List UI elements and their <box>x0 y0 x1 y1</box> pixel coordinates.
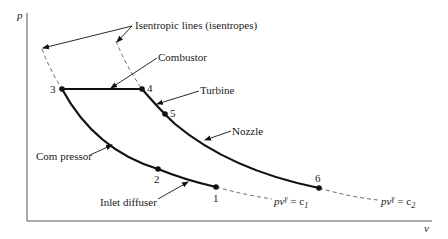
point-5-label: 5 <box>170 107 176 119</box>
cycle-path <box>62 89 319 188</box>
svg-text:pvγ = c1: pvγ = c1 <box>273 194 308 210</box>
point-2-label: 2 <box>154 173 160 185</box>
x-axis-label: v <box>424 222 429 234</box>
component-labels: Isentropic lines (isentropes) Combustor … <box>36 19 263 208</box>
point-6 <box>316 185 322 191</box>
y-axis-label: p <box>16 9 23 21</box>
axes: p v <box>16 9 432 234</box>
eq-c2-lhs: pv <box>380 195 392 207</box>
eq-c1-lhs: pv <box>273 195 285 207</box>
equation-c2: pvγ = c2 <box>380 194 415 210</box>
isentrope-c2-tail <box>319 188 378 200</box>
point-labels: 1 2 3 4 5 6 <box>50 82 321 204</box>
compressor-label: Com pressor <box>36 150 92 162</box>
point-1 <box>213 184 219 190</box>
turbine-label: Turbine <box>200 84 235 96</box>
point-5 <box>162 111 168 117</box>
pv-diagram: p v 1 2 3 4 5 6 <box>0 0 448 239</box>
isentrope-lines <box>42 41 378 200</box>
inlet-diffuser-leader <box>158 182 188 199</box>
eq-c2-rhs: = c <box>395 195 412 207</box>
isentrope-c1-tail <box>216 187 272 199</box>
combustor-label: Combustor <box>158 51 207 63</box>
nozzle-leader <box>205 131 231 140</box>
eq-c1-rhs: = c <box>288 195 305 207</box>
inlet-diffuser-label: Inlet diffuser <box>100 196 157 208</box>
point-3 <box>59 86 65 92</box>
state-points <box>59 86 322 191</box>
eq-c1-sub: 1 <box>304 201 308 210</box>
point-2 <box>155 166 161 172</box>
point-3-label: 3 <box>50 83 56 95</box>
point-6-label: 6 <box>315 172 321 184</box>
turbine-leader <box>157 91 199 104</box>
isentrope-leader-1 <box>43 26 132 48</box>
point-4-label: 4 <box>147 82 153 94</box>
svg-text:pvγ = c2: pvγ = c2 <box>380 194 415 210</box>
isentropes-label: Isentropic lines (isentropes) <box>135 19 258 32</box>
isentrope-leader-2 <box>117 26 132 42</box>
compressor-leader <box>90 145 112 155</box>
nozzle-label: Nozzle <box>232 125 263 137</box>
eq-c2-sub: 2 <box>411 201 415 210</box>
point-1-label: 1 <box>213 192 219 204</box>
point-4 <box>139 86 145 92</box>
equation-c1: pvγ = c1 <box>273 194 308 210</box>
